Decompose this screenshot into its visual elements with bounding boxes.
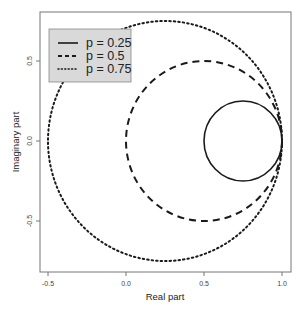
- legend-label: p = 0.25: [86, 36, 132, 50]
- legend-label: p = 0.5: [86, 49, 125, 63]
- legend: p = 0.25 p = 0.5 p = 0.75: [49, 29, 132, 82]
- legend-label: p = 0.75: [86, 62, 132, 76]
- y-axis: [36, 61, 40, 221]
- x-axis-title: Real part: [146, 291, 185, 302]
- circle-p-0.25: [204, 101, 282, 181]
- y-tick-label: 0.0: [26, 136, 33, 146]
- x-tick-label: 0.0: [121, 280, 131, 287]
- x-axis: [48, 272, 282, 276]
- y-tick-label: -0.5: [26, 215, 33, 227]
- x-tick-label: 1.0: [277, 280, 287, 287]
- x-tick-label: -0.5: [42, 280, 54, 287]
- y-tick-label: 0.5: [26, 56, 33, 66]
- y-axis-title: Imaginary part: [10, 111, 21, 172]
- chart-canvas: -0.5 0.0 0.5 1.0 0.5 0.0 -0.5 Real part …: [0, 0, 304, 314]
- x-tick-label: 0.5: [199, 280, 209, 287]
